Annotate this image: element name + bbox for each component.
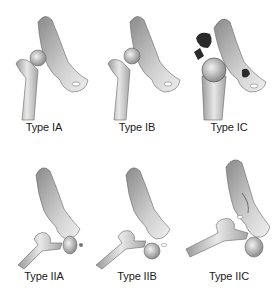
hip-illustration-ib xyxy=(92,0,184,140)
panel-label: Type IC xyxy=(183,121,275,133)
panel-label: Type IA xyxy=(0,121,90,133)
panel-label: Type IIC xyxy=(183,270,275,282)
hip-illustration-iia xyxy=(0,147,92,287)
panel-type-iic: Type IIC xyxy=(184,147,276,287)
panel-label: Type IIB xyxy=(91,270,183,282)
panel-type-iib: Type IIB xyxy=(92,147,184,287)
hip-illustration-ia xyxy=(0,0,92,140)
panel-type-ic: Type IC xyxy=(184,0,276,140)
panel-type-ib: Type IB xyxy=(92,0,184,140)
hip-illustration-ic xyxy=(184,0,276,140)
panel-type-iia: Type IIA xyxy=(0,147,92,287)
panel-label: Type IB xyxy=(91,121,183,133)
panel-label: Type IIA xyxy=(0,270,90,282)
panel-type-ia: Type IA xyxy=(0,0,92,140)
hip-illustration-iib xyxy=(92,147,184,287)
hip-illustration-iic xyxy=(184,147,276,287)
